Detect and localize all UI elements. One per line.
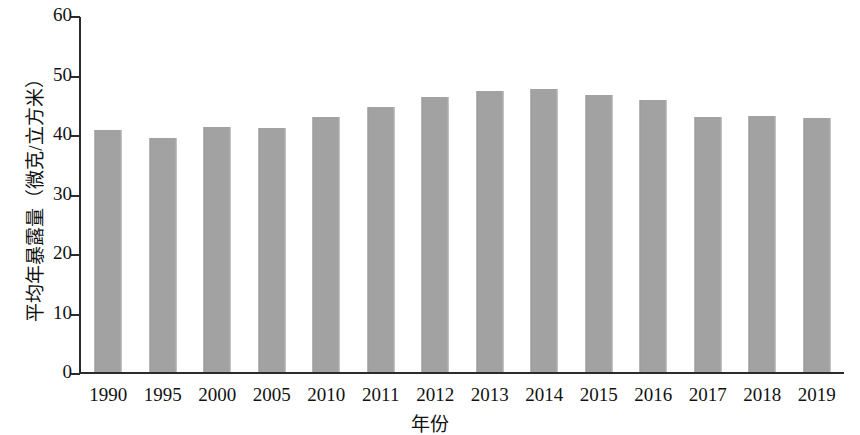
y-tick-mark: [71, 373, 80, 375]
x-tick-label: 2019: [785, 384, 849, 406]
bar-slot: [408, 17, 463, 372]
y-tick-mark: [71, 314, 80, 316]
bar: [585, 95, 612, 372]
bar: [313, 117, 340, 372]
y-tick-mark: [71, 254, 80, 256]
bar: [640, 100, 667, 372]
bar-slot: [245, 17, 300, 372]
bar-slot: [81, 17, 136, 372]
bar: [367, 107, 394, 372]
y-tick-mark: [71, 195, 80, 197]
y-tick-label: 50: [32, 65, 72, 85]
y-tick-label: 10: [32, 303, 72, 323]
y-tick-label: 60: [32, 5, 72, 25]
x-axis-title: 年份: [0, 409, 860, 435]
bar-slot: [354, 17, 409, 372]
bar-slot: [572, 17, 627, 372]
bar-slot: [735, 17, 790, 372]
bar-chart-figure: 平均年暴露量（微克/立方米） 0102030405060 19901995200…: [0, 0, 860, 435]
bar: [422, 97, 449, 372]
bar-slot: [790, 17, 845, 372]
bar: [694, 117, 721, 372]
bar: [531, 89, 558, 372]
bar: [476, 91, 503, 372]
bar: [204, 127, 231, 372]
plot-area: 0102030405060: [79, 17, 844, 374]
bar-slot: [626, 17, 681, 372]
bar: [258, 128, 285, 372]
y-tick-mark: [71, 135, 80, 137]
x-axis-line: [79, 372, 844, 374]
bar-slot: [681, 17, 736, 372]
y-tick-mark: [71, 76, 80, 78]
bar-slot: [299, 17, 354, 372]
bar-slot: [190, 17, 245, 372]
y-tick-label: 40: [32, 124, 72, 144]
bar: [749, 116, 776, 372]
bar-slot: [136, 17, 191, 372]
bar-slot: [463, 17, 518, 372]
y-tick-label: 0: [32, 362, 72, 382]
y-tick-label: 30: [32, 184, 72, 204]
bar: [95, 130, 122, 372]
bar-slot: [517, 17, 572, 372]
y-tick-mark: [71, 16, 80, 18]
bar: [149, 138, 176, 372]
bar-series: [81, 17, 844, 372]
y-tick-label: 20: [32, 243, 72, 263]
bar: [803, 118, 830, 372]
